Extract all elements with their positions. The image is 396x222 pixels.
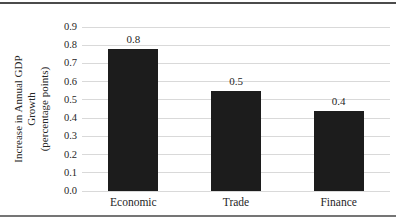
y-axis-title-line-2: Growth <box>25 9 38 209</box>
bar-value-label-trade: 0.5 <box>206 75 266 87</box>
x-category-label-trade: Trade <box>191 196 281 209</box>
bar-economic <box>108 49 158 191</box>
gridline-0.9 <box>82 27 390 28</box>
x-category-label-economic: Economic <box>88 196 178 209</box>
y-axis-title: Increase in Annual GDP Growth (percentag… <box>12 9 51 209</box>
y-tick-label-0.6: 0.6 <box>0 77 77 87</box>
bar-value-label-finance: 0.4 <box>309 95 369 107</box>
y-tick-label-0.7: 0.7 <box>0 58 77 68</box>
bar-finance <box>314 111 364 191</box>
bar-chart-figure: Increase in Annual GDP Growth (percentag… <box>0 0 396 222</box>
y-tick-label-0.9: 0.9 <box>0 22 77 32</box>
bar-value-label-economic: 0.8 <box>103 33 163 45</box>
top-rule <box>0 2 396 4</box>
bar-trade <box>211 91 261 191</box>
y-tick-label-0.1: 0.1 <box>0 168 77 178</box>
y-axis-title-line-1: Increase in Annual GDP <box>12 9 25 209</box>
plot-area: 0.80.50.4 <box>82 27 390 191</box>
y-tick-label-0.8: 0.8 <box>0 40 77 50</box>
y-tick-label-0.2: 0.2 <box>0 150 77 160</box>
y-tick-label-0.4: 0.4 <box>0 113 77 123</box>
y-tick-label-0.3: 0.3 <box>0 131 77 141</box>
y-axis-title-line-3: (percentage points) <box>38 9 51 209</box>
y-tick-label-0.0: 0.0 <box>0 186 77 196</box>
bottom-rule <box>0 215 396 217</box>
y-tick-label-0.5: 0.5 <box>0 95 77 105</box>
x-category-label-finance: Finance <box>294 196 384 209</box>
